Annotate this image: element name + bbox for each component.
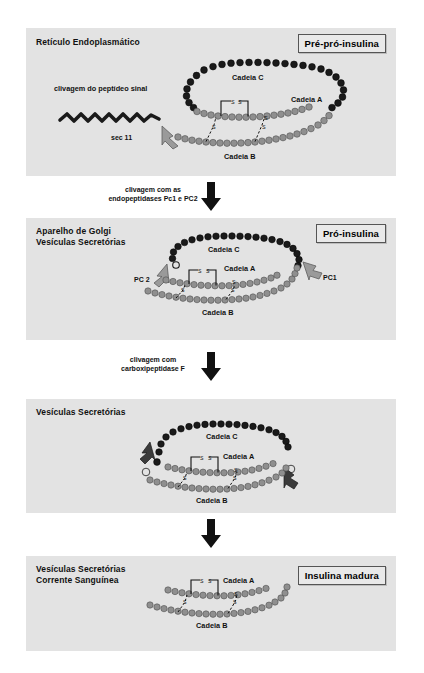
- bond-label-s: S: [264, 115, 268, 121]
- panel-pre-pro-insulin: Retículo Endoplasmático Pré-pró-insulina…: [26, 28, 396, 176]
- bond-label-s: S: [183, 475, 187, 481]
- panel-pro-insulin: Aparelho de Golgi Vesículas Secretórias …: [26, 218, 396, 340]
- bond-label-s: S: [208, 455, 212, 461]
- bond-label-s: S: [231, 287, 235, 293]
- bond-label-s: S: [200, 578, 204, 584]
- chain-a-beads: [165, 585, 269, 599]
- bond-label-s: S: [231, 99, 235, 105]
- bond-label-s: S: [262, 124, 266, 130]
- panel-2-pc1-label: PC1: [323, 274, 337, 281]
- panel-2-chain-a-label: Cadeia A: [224, 264, 255, 273]
- bond-label-s: S: [198, 268, 202, 274]
- bond-label-s: S: [212, 124, 216, 130]
- panel-4-molecule-graphic: S S S S S: [26, 556, 396, 651]
- panel-2-chain-b-label: Cadeia B: [202, 308, 234, 317]
- panel-2-molecule-graphic: S S S S S: [26, 218, 396, 340]
- bond-label-s: S: [232, 279, 236, 285]
- panel-3-chain-a-label: Cadeia A: [223, 452, 254, 461]
- panel-1-chain-a-label: Cadeia A: [291, 95, 322, 104]
- bond-label-s: S: [233, 475, 237, 481]
- bond-label-s: S: [183, 599, 187, 605]
- panel-1-chain-c-label: Cadeia C: [232, 73, 264, 82]
- released-residue-marker-left: [142, 468, 150, 476]
- chain-a-beads: [165, 460, 276, 476]
- panel-3-chain-c-label: Cadeia C: [206, 432, 238, 441]
- bond-label-s: S: [234, 591, 238, 597]
- bond-label-s: S: [238, 99, 242, 105]
- bond-label-s: S: [181, 287, 185, 293]
- panel-secretory-vesicles: Vesículas Secretórias: [26, 399, 396, 513]
- bond-label-s: S: [234, 467, 238, 473]
- carboxypeptidase-arrow-left-icon: [140, 442, 155, 464]
- bond-label-s: S: [200, 455, 204, 461]
- panel-1-chain-b-label: Cadeia B: [224, 152, 256, 161]
- down-arrow-icon: [198, 182, 224, 212]
- chain-a-beads: [194, 104, 313, 121]
- bond-label-s: S: [208, 578, 212, 584]
- pc1-cleavage-arrow-icon: [303, 262, 322, 280]
- panel-3-chain-b-label: Cadeia B: [196, 496, 228, 505]
- panel-mature-insulin: Vesículas Secretórias Corrente Sanguínea…: [26, 556, 396, 651]
- pc2-cleavage-arrow-icon: [154, 264, 169, 287]
- signal-peptide-zigzag: [60, 114, 159, 121]
- bond-label-s: S: [206, 268, 210, 274]
- down-arrow-icon: [198, 519, 224, 549]
- panel-2-chain-c-label: Cadeia C: [208, 245, 240, 254]
- bond-label-s: S: [233, 599, 237, 605]
- panel-4-chain-b-label: Cadeia B: [196, 621, 228, 630]
- panel-1-molecule-graphic: S S S S S: [26, 28, 396, 176]
- panel-4-chain-a-label: Cadeia A: [223, 576, 254, 585]
- down-arrow-icon: [198, 352, 224, 382]
- panel-2-pc2-label: PC 2: [134, 276, 150, 283]
